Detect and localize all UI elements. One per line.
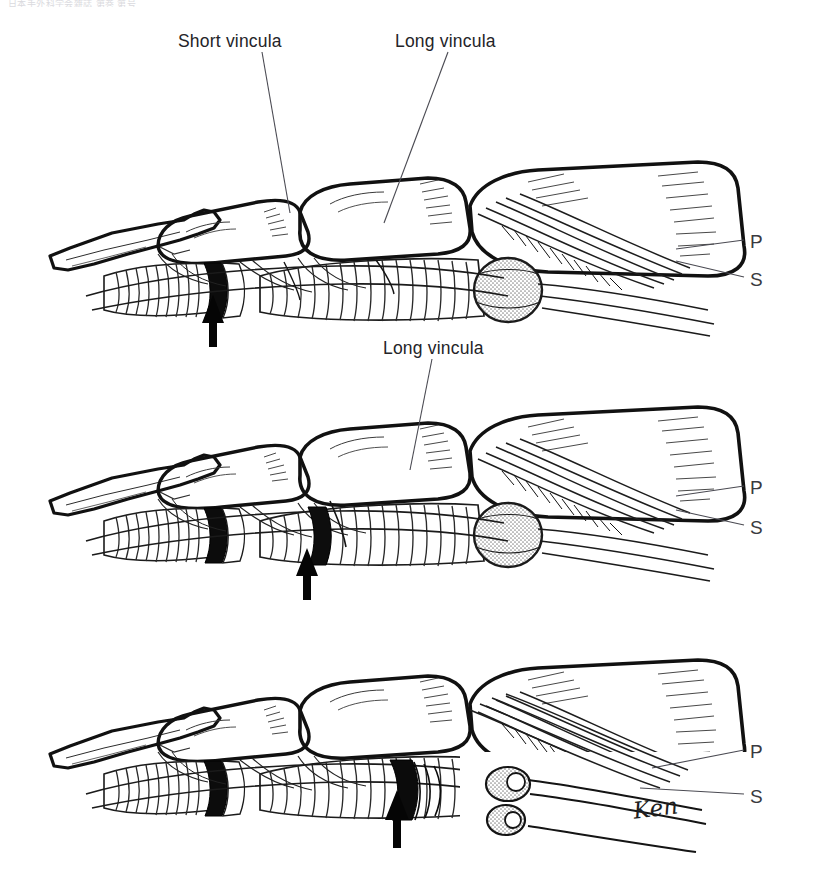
- leader-short-vincula-1: [262, 52, 290, 213]
- artist-signature: Ken: [632, 792, 680, 823]
- label-superficialis-panel2: S: [750, 517, 763, 539]
- panel-middle-artwork: [50, 407, 745, 581]
- leader-p-2: [676, 486, 744, 496]
- label-superficialis-panel1: S: [750, 269, 763, 291]
- callout-long-vincula-panel1: Long vincula: [395, 31, 496, 52]
- label-profundus-panel2: P: [750, 477, 763, 499]
- callout-short-vincula-panel1: Short vincula: [178, 31, 282, 52]
- label-profundus-panel1: P: [750, 231, 763, 253]
- callout-long-vincula-panel2: Long vincula: [383, 338, 484, 359]
- label-profundus-panel3: P: [750, 741, 763, 763]
- anatomy-artwork: [0, 0, 839, 894]
- panel-bottom-artwork: [50, 660, 760, 852]
- leader-p-1: [676, 240, 744, 249]
- label-superficialis-panel3: S: [750, 786, 763, 808]
- leader-long-vincula-2: [410, 359, 432, 470]
- illustration-figure: 日本手外科学会雑誌 第巻 第号: [0, 0, 839, 894]
